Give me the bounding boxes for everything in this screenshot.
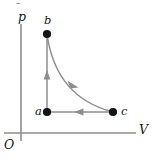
state-label-a: a xyxy=(35,106,42,118)
state-label-c: c xyxy=(121,106,127,118)
pv-diagram-canvas xyxy=(0,0,159,160)
state-point-c xyxy=(109,108,117,116)
p-axis-label: p xyxy=(18,11,26,24)
arrow-c-to-a-icon xyxy=(74,109,84,116)
state-label-b: b xyxy=(44,15,51,27)
arrow-a-to-b-icon xyxy=(44,70,51,80)
v-axis-label: V xyxy=(139,124,148,137)
state-point-b xyxy=(43,30,51,38)
origin-label: O xyxy=(4,139,14,152)
state-point-a xyxy=(43,108,51,116)
pv-diagram-figure: o p V O b a c xyxy=(0,0,159,160)
process-b-to-c xyxy=(47,34,113,112)
